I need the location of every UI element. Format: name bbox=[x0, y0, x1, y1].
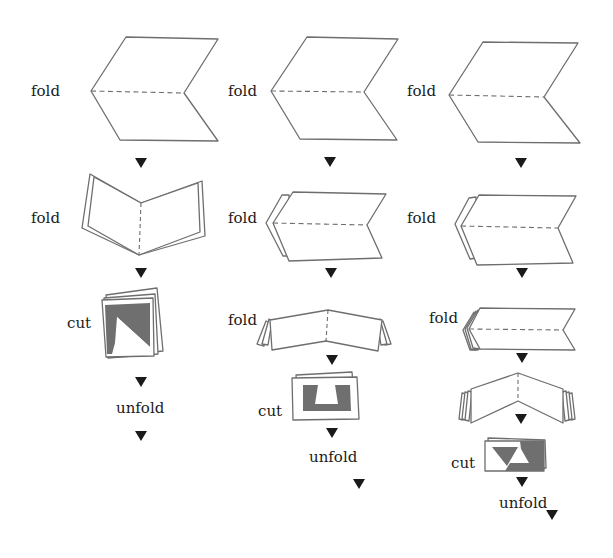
col2-fold3-figure bbox=[257, 310, 391, 351]
col3-arrow-4 bbox=[515, 414, 527, 424]
col3-step1-label: fold bbox=[407, 84, 436, 99]
folding-diagram: fold fold cut unfold fold fold fold cut … bbox=[0, 0, 613, 558]
col2-arrow-2 bbox=[325, 268, 337, 278]
col2-step3-label: fold bbox=[228, 313, 257, 328]
col1-cut-figure bbox=[102, 288, 163, 358]
col3-cut-figure bbox=[485, 438, 546, 471]
col1-step2-label: fold bbox=[31, 211, 60, 226]
col3-step2-label: fold bbox=[407, 211, 436, 226]
col2-cut-figure bbox=[292, 372, 359, 420]
col2-step5-label: unfold bbox=[309, 450, 357, 465]
col1-sheet-figure bbox=[91, 37, 218, 141]
col3-step3-label: fold bbox=[429, 311, 458, 326]
col1-arrow-4 bbox=[135, 431, 147, 441]
col1-step1-label: fold bbox=[31, 84, 60, 99]
col2-arrow-5 bbox=[353, 479, 365, 489]
col3-arrow-5 bbox=[516, 477, 528, 487]
diagram-canvas bbox=[0, 0, 613, 558]
col2-step2-label: fold bbox=[228, 211, 257, 226]
col2-sheet-figure bbox=[271, 37, 398, 140]
col3-fold2-figure bbox=[455, 195, 576, 265]
col2-arrow-1 bbox=[324, 157, 336, 167]
col1-fold2-figure bbox=[82, 174, 205, 255]
col3-arrow-2 bbox=[516, 268, 528, 278]
col1-step4-label: unfold bbox=[116, 401, 164, 416]
col2-arrow-4 bbox=[326, 428, 338, 438]
col3-fold3-figure bbox=[463, 308, 575, 350]
col1-arrow-2 bbox=[135, 268, 147, 278]
col3-arrow-3 bbox=[516, 353, 528, 363]
col3-step6-label: unfold bbox=[499, 496, 547, 511]
col1-arrow-3 bbox=[135, 377, 147, 387]
col3-arrow-6 bbox=[546, 510, 558, 520]
col3-sheet-figure bbox=[449, 42, 580, 143]
col1-step3-label: cut bbox=[67, 316, 91, 331]
col2-step1-label: fold bbox=[228, 84, 257, 99]
col2-step4-label: cut bbox=[258, 404, 282, 419]
col2-fold2-figure bbox=[266, 192, 386, 261]
col3-step5-label: cut bbox=[451, 456, 475, 471]
col3-arrow-1 bbox=[515, 158, 527, 168]
col1-arrow-1 bbox=[135, 158, 147, 168]
col2-arrow-3 bbox=[326, 355, 338, 365]
